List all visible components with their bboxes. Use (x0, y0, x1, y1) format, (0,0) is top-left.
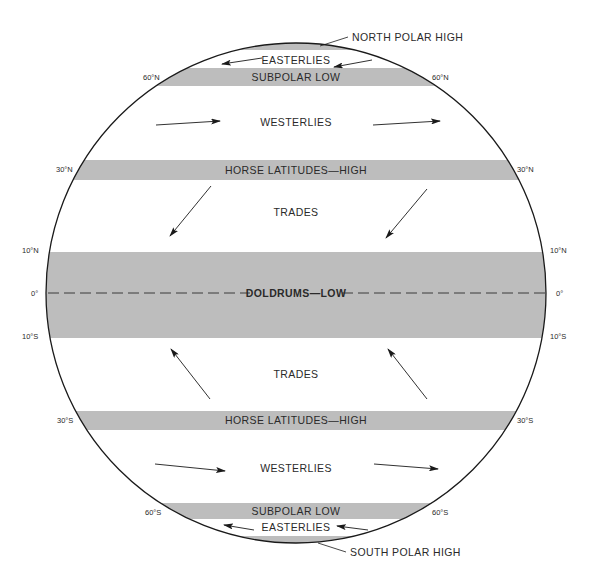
lat-10n-right: 10°N (550, 246, 567, 255)
lat-10s-right: 10°S (550, 332, 566, 341)
arrow-icon (373, 121, 440, 125)
arrow-icon (171, 349, 210, 399)
north-polar-high-leader (320, 37, 348, 46)
lat-0-right: 0° (556, 289, 563, 298)
lat-30n-right: 30°N (517, 165, 534, 174)
pressure-belts-diagram: EASTERLIES SUBPOLAR LOW WESTERLIES HORSE… (0, 0, 590, 578)
lat-30s-left: 30°S (57, 416, 73, 425)
arrow-icon (222, 58, 262, 64)
lat-60n-left: 60°N (143, 73, 160, 82)
lat-10n-left: 10°N (22, 246, 39, 255)
south-polar-high-leader (318, 543, 346, 552)
label-easterlies-south: EASTERLIES (262, 521, 331, 533)
belt-north-polar-cap (0, 40, 590, 50)
arrow-icon (374, 464, 438, 469)
lat-60n-right: 60°N (432, 73, 449, 82)
label-easterlies-north: EASTERLIES (262, 54, 331, 66)
arrow-icon (224, 525, 254, 530)
lat-0-left: 0° (31, 289, 38, 298)
arrow-icon (334, 60, 372, 67)
arrow-icon (170, 186, 211, 236)
label-south-polar-high: SOUTH POLAR HIGH (350, 546, 461, 558)
belt-south-polar-cap (0, 536, 590, 546)
label-doldrums: DOLDRUMS—LOW (246, 287, 346, 299)
arrow-icon (386, 189, 427, 238)
arrow-icon (388, 349, 427, 399)
lat-60s-right: 60°S (432, 508, 448, 517)
label-horse-latitudes-north: HORSE LATITUDES—HIGH (225, 164, 367, 176)
label-westerlies-south: WESTERLIES (260, 462, 332, 474)
arrow-icon (337, 526, 368, 530)
label-subpolar-low-south: SUBPOLAR LOW (252, 505, 341, 517)
label-horse-latitudes-south: HORSE LATITUDES—HIGH (225, 414, 367, 426)
label-westerlies-north: WESTERLIES (260, 116, 332, 128)
lat-60s-left: 60°S (145, 508, 161, 517)
label-north-polar-high: NORTH POLAR HIGH (352, 31, 463, 43)
lat-10s-left: 10°S (22, 332, 38, 341)
label-trades-south: TRADES (274, 368, 319, 380)
label-trades-north: TRADES (274, 206, 319, 218)
lat-30s-right: 30°S (517, 416, 533, 425)
arrow-icon (155, 464, 225, 471)
arrow-icon (156, 121, 220, 125)
lat-30n-left: 30°N (56, 165, 73, 174)
label-subpolar-low-north: SUBPOLAR LOW (252, 71, 341, 83)
